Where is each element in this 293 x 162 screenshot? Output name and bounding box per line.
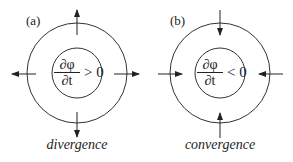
panel-label-b: (b) (170, 13, 185, 29)
equation-b: ∂φ ∂t < 0 (197, 57, 247, 88)
fraction: ∂φ ∂t (197, 57, 223, 88)
panel-label-a: (a) (26, 13, 40, 29)
equation-a: ∂φ ∂t > 0 (54, 57, 104, 88)
relation: < 0 (227, 64, 247, 81)
numerator: ∂φ (203, 57, 218, 72)
numerator: ∂φ (60, 57, 75, 72)
denominator: ∂t (205, 73, 216, 88)
relation: > 0 (84, 64, 104, 81)
caption-divergence: divergence (17, 137, 137, 153)
fraction: ∂φ ∂t (54, 57, 80, 88)
caption-convergence: convergence (160, 137, 280, 153)
denominator: ∂t (62, 73, 73, 88)
